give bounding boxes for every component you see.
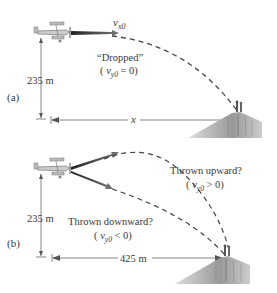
height-label-b: 235 m (27, 213, 54, 224)
upward-velocity-arrow (71, 152, 119, 170)
downward-condition: ( vy0 < 0) (94, 230, 132, 244)
panel-a: vx0 “Dropped” ( vy0 = 0) 235 m (a) x (7, 16, 262, 138)
airplane-icon (34, 22, 70, 43)
people-icon (236, 101, 243, 112)
distance-label-a: x (130, 113, 136, 125)
distance-label-b: 425 m (120, 253, 147, 264)
velocity-label: vx0 (113, 16, 125, 31)
upward-label: Thrown upward? (170, 165, 242, 176)
airplane-icon (34, 158, 70, 179)
height-label-a: 235 m (27, 75, 54, 86)
panel-b-label: (b) (7, 237, 20, 250)
cliff-icon (188, 112, 262, 138)
upward-condition: ( vy0 > 0) (186, 179, 224, 193)
panel-b: Thrown upward? ( vy0 > 0) Thrown downwar… (7, 152, 250, 284)
downward-velocity-arrow (71, 171, 113, 189)
panel-a-label: (a) (7, 91, 20, 104)
cliff-icon (175, 256, 250, 284)
dropped-label: “Dropped” (97, 52, 143, 63)
projectile-diagram: vx0 “Dropped” ( vy0 = 0) 235 m (a) x (0, 0, 277, 293)
velocity-vector-arrow (71, 30, 119, 36)
downward-label: Thrown downward? (68, 216, 153, 227)
dropped-condition: ( vy0 = 0) (100, 65, 138, 79)
people-icon (224, 245, 231, 256)
